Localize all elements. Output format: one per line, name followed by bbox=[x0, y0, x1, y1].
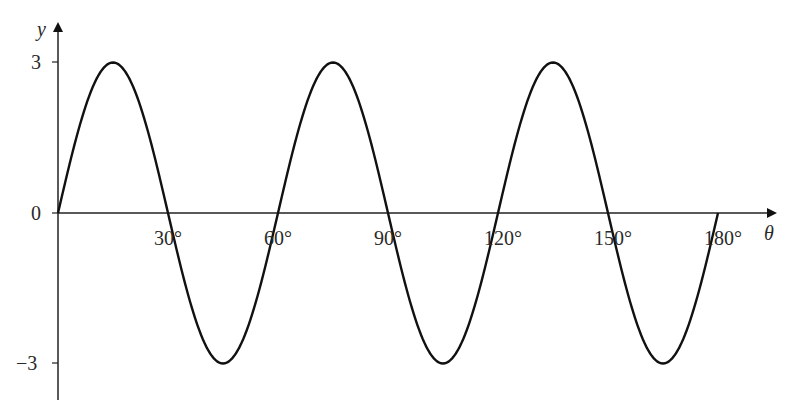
x-tick-label: 180° bbox=[704, 227, 742, 249]
y-axis-label: y bbox=[35, 18, 46, 41]
chart: y 3 0 −3 θ 30°60°90°120°150°180° bbox=[0, 0, 786, 412]
x-axis-label: θ bbox=[764, 222, 774, 244]
x-tick-label: 30° bbox=[154, 227, 182, 249]
y-tick-label-3: 3 bbox=[31, 51, 41, 73]
x-tick-label: 150° bbox=[594, 227, 632, 249]
x-tick-label: 90° bbox=[374, 227, 402, 249]
x-tick-label: 60° bbox=[264, 227, 292, 249]
x-tick-label: 120° bbox=[484, 227, 522, 249]
origin-label: 0 bbox=[31, 202, 41, 224]
y-tick-label-neg3: −3 bbox=[16, 352, 37, 374]
